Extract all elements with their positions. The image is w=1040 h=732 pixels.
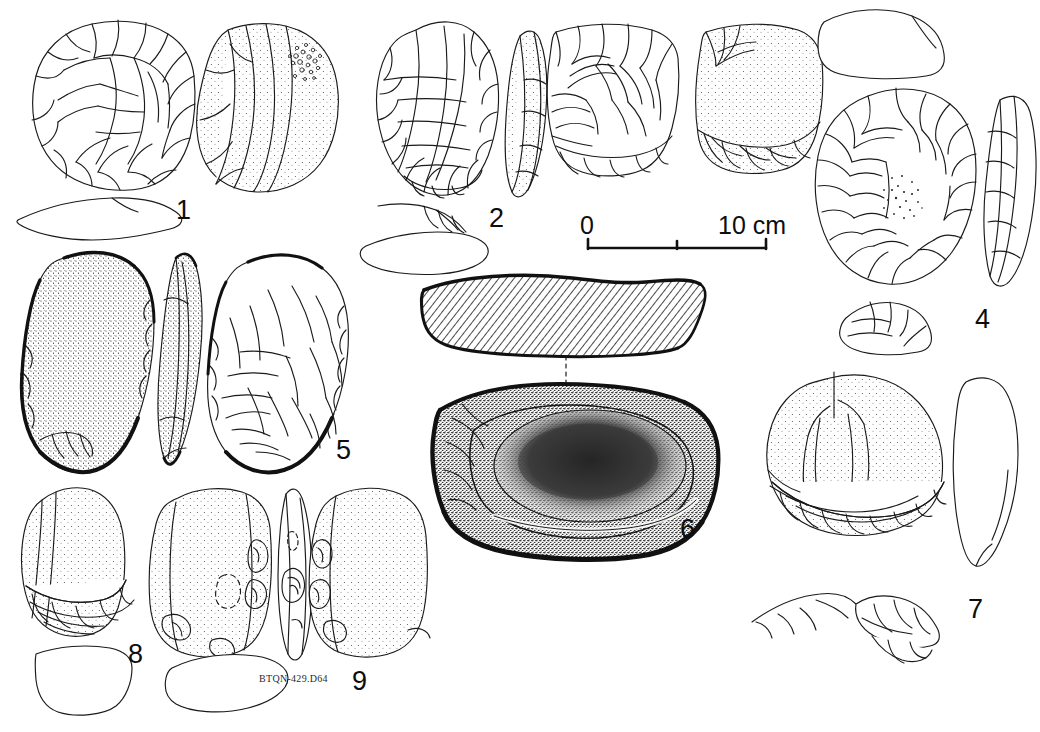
plate-drawing xyxy=(0,0,1040,732)
figure-number-5: 5 xyxy=(336,437,351,464)
figure-number-2: 2 xyxy=(489,205,504,232)
figure-number-4: 4 xyxy=(975,306,990,333)
figure-5-drawing xyxy=(22,252,349,472)
figure-number-1: 1 xyxy=(176,197,191,224)
figure-4-drawing xyxy=(815,88,1036,355)
scale-bar-start-label: 0 xyxy=(580,213,594,238)
figure-6-drawing xyxy=(421,275,718,559)
figure-2-drawing xyxy=(360,22,547,275)
figure-number-6: 6 xyxy=(680,516,695,543)
artifact-plate: 1 2 4 5 6 7 8 9 BTQN-429.D64 0 10 cm xyxy=(0,0,1040,732)
figure-number-8: 8 xyxy=(128,641,143,668)
figure-number-9: 9 xyxy=(352,668,367,695)
catalogue-label: BTQN-429.D64 xyxy=(259,673,328,684)
scale-bar-drawing xyxy=(588,239,766,249)
scale-bar-end-label: 10 cm xyxy=(718,213,786,238)
figure-8-drawing xyxy=(22,488,135,715)
figure-number-7: 7 xyxy=(968,596,983,623)
